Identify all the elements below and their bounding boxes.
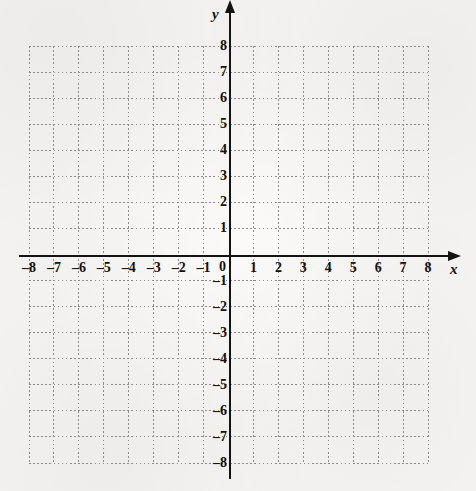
x-tick-label: 2 [275, 261, 282, 275]
x-axis-label: x [450, 262, 458, 277]
x-tick-label: 7 [400, 261, 407, 275]
y-tick-label: 3 [220, 169, 227, 183]
y-tick-label: 2 [220, 195, 227, 209]
y-tick-label: –1 [213, 274, 227, 288]
x-tick-label: –3 [147, 261, 161, 275]
coordinate-grid-figure: –8–7–6–5–4–3–2–112345678 –8–7–6–5–4–3–2–… [0, 0, 476, 491]
y-tick-label: –4 [213, 352, 227, 366]
arrow-up-icon [225, 0, 235, 13]
x-tick-label: 6 [375, 261, 382, 275]
y-tick-label: –7 [213, 430, 227, 444]
x-tick-label: –8 [22, 261, 36, 275]
origin-label: 0 [219, 260, 226, 274]
y-tick-label: 5 [220, 117, 227, 131]
plot-area: –8–7–6–5–4–3–2–112345678 –8–7–6–5–4–3–2–… [0, 0, 476, 491]
y-tick-label: –2 [213, 300, 227, 314]
y-tick-label: –8 [213, 456, 227, 470]
x-tick-label: 5 [350, 261, 357, 275]
x-tick-label: 3 [300, 261, 307, 275]
y-axis-line [229, 12, 231, 479]
arrow-right-icon [448, 251, 461, 261]
y-tick-label: 4 [220, 143, 227, 157]
y-tick-label: 1 [220, 221, 227, 235]
x-tick-label: –1 [197, 261, 211, 275]
x-tick-label: –7 [47, 261, 61, 275]
y-tick-label: 7 [220, 65, 227, 79]
x-axis-line [19, 255, 448, 257]
x-tick-label: 4 [325, 261, 332, 275]
x-tick-label: –4 [122, 261, 136, 275]
y-tick-label: –6 [213, 404, 227, 418]
x-tick-label: –6 [72, 261, 86, 275]
y-tick-label: –5 [213, 378, 227, 392]
y-tick-label: –3 [213, 326, 227, 340]
x-tick-label: –2 [172, 261, 186, 275]
y-tick-label: 6 [220, 91, 227, 105]
x-tick-label: 8 [425, 261, 432, 275]
x-tick-label: 1 [250, 261, 257, 275]
y-tick-label: 8 [220, 39, 227, 53]
y-axis-label: y [212, 7, 219, 22]
x-tick-label: –5 [97, 261, 111, 275]
